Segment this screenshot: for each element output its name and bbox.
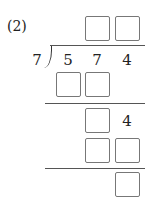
dividend-digit-ones: 4 xyxy=(121,53,133,68)
product1-box-hundreds[interactable] xyxy=(56,72,81,97)
subtraction-line-1 xyxy=(45,103,145,104)
remainder1-box-tens[interactable] xyxy=(85,108,110,133)
quotient-box-ones[interactable] xyxy=(115,16,140,41)
dividend-digit-tens: 7 xyxy=(91,53,103,68)
problem-label: (2) xyxy=(7,18,27,34)
final-remainder-box[interactable] xyxy=(115,172,140,197)
product2-box-ones[interactable] xyxy=(115,138,140,163)
division-bracket xyxy=(44,46,52,68)
subtraction-line-2 xyxy=(45,168,145,169)
dividend-digit-hundreds: 5 xyxy=(62,53,74,68)
division-bar xyxy=(50,45,145,46)
brought-down-digit: 4 xyxy=(121,114,133,129)
product2-box-tens[interactable] xyxy=(85,138,110,163)
product1-box-tens[interactable] xyxy=(85,72,110,97)
divisor: 7 xyxy=(31,53,43,68)
quotient-box-tens[interactable] xyxy=(85,16,110,41)
